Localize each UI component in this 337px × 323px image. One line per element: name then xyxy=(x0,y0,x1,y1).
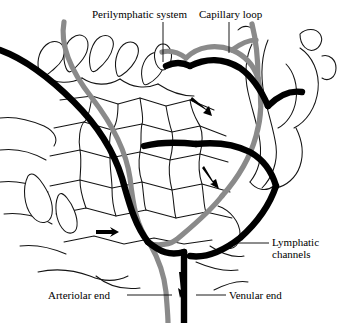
flow-arrow-middle xyxy=(202,166,219,189)
diagram-canvas xyxy=(0,0,337,323)
lymph-arc-4 xyxy=(158,84,194,96)
lymph-finger-ur-1 xyxy=(300,30,322,51)
lymph-left-twig-5 xyxy=(20,245,66,254)
lymph-mesh-row-6 xyxy=(64,236,212,244)
lymph-left-twig-2 xyxy=(0,149,46,160)
label-venular-end: Venular end xyxy=(229,289,282,301)
lymph-left-twig-6 xyxy=(38,270,128,281)
venule-right-descend xyxy=(190,186,276,256)
label-arteriolar-end: Arteriolar end xyxy=(48,289,110,301)
lymph-bottom-2 xyxy=(196,262,238,271)
lymph-bottom-1 xyxy=(96,276,140,289)
label-capillary-loop: Capillary loop xyxy=(199,8,262,20)
lymph-sac-left-2 xyxy=(56,194,77,234)
lymph-mesh-col-4 xyxy=(166,106,176,218)
venule-network xyxy=(0,50,302,323)
figure-container: Perilymphatic system Capillary loop Lymp… xyxy=(0,0,337,323)
arteriole-arch-branch xyxy=(232,40,256,50)
venule-loop-left-tip xyxy=(166,63,190,66)
arteriole-right-descend xyxy=(222,78,261,196)
arteriole-stalk xyxy=(150,244,168,323)
lymph-mesh-col-3 xyxy=(139,98,146,210)
venule-mid-cross xyxy=(144,143,196,146)
label-lymphatic-channels-line2: channels xyxy=(272,248,310,261)
lymph-finger-ul-3 xyxy=(89,36,113,72)
lymph-right-5 xyxy=(276,128,302,188)
lymph-arc-2 xyxy=(82,78,120,84)
label-perilymphatic-system: Perilymphatic system xyxy=(92,8,187,20)
label-lymphatic-channels-line1: Lymphatic xyxy=(272,236,319,249)
lymph-left-twig-1 xyxy=(0,117,56,146)
lymph-finger-ur-2 xyxy=(322,56,336,80)
lymph-right-4 xyxy=(294,48,318,128)
arteriole-right-lower xyxy=(176,196,222,240)
venule-loop-tail xyxy=(268,92,302,106)
lymph-finger-ul-4 xyxy=(115,42,138,76)
flow-arrow-left xyxy=(96,227,119,237)
